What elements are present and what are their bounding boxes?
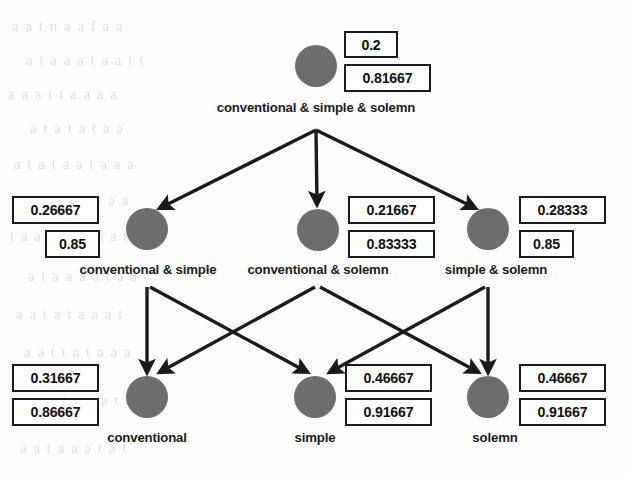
value-box-support: 0.21667 bbox=[348, 196, 435, 224]
value-box-support: 0.28333 bbox=[519, 196, 606, 224]
edge-conventional-solemn-to-solemn bbox=[320, 287, 478, 372]
node-circle[interactable] bbox=[294, 376, 336, 418]
value-box-support: 0.31667 bbox=[12, 364, 99, 392]
value-box-confidence: 0.91667 bbox=[519, 398, 606, 426]
diagram-canvas: a a t n a a f a a a t a a a t a a t t a … bbox=[0, 0, 629, 478]
edge-root-to-conventional-simple bbox=[160, 130, 316, 208]
node-label: conventional & simple bbox=[58, 262, 238, 277]
value-box-confidence: 0.86667 bbox=[12, 398, 99, 426]
node-circle[interactable] bbox=[126, 376, 168, 418]
value-box-confidence: 0.85 bbox=[519, 230, 574, 258]
value-box-support: 0.2 bbox=[344, 31, 398, 58]
edge-conventional-solemn-to-conventional bbox=[160, 287, 315, 372]
edge-simple-solemn-to-simple bbox=[330, 287, 485, 372]
node-label: conventional & solemn bbox=[228, 262, 408, 277]
node-label: conventional bbox=[77, 430, 217, 445]
value-box-support: 0.46667 bbox=[519, 364, 606, 392]
node-label: solemn bbox=[455, 430, 535, 445]
edge-root-to-conventional-solemn bbox=[316, 130, 317, 204]
node-circle[interactable] bbox=[126, 208, 168, 250]
value-box-confidence: 0.85 bbox=[45, 230, 100, 258]
node-circle[interactable] bbox=[467, 376, 509, 418]
node-label: conventional & simple & solemn bbox=[196, 100, 436, 115]
node-label: simple & solemn bbox=[423, 262, 569, 277]
node-circle[interactable] bbox=[467, 208, 509, 250]
value-box-confidence: 0.83333 bbox=[348, 230, 435, 258]
edge-conventional-simple-to-simple bbox=[150, 287, 307, 372]
value-box-support: 0.26667 bbox=[12, 196, 99, 224]
node-circle[interactable] bbox=[295, 45, 337, 87]
value-box-confidence: 0.91667 bbox=[345, 398, 432, 426]
value-box-confidence: 0.81667 bbox=[344, 64, 431, 92]
value-box-support: 0.46667 bbox=[345, 364, 432, 392]
node-label: simple bbox=[275, 430, 355, 445]
node-circle[interactable] bbox=[297, 209, 339, 251]
